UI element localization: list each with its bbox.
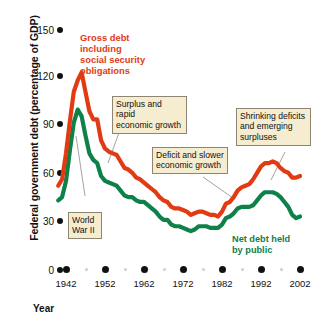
callout-deficit-growth: Deficit and slower economic growth [152,147,228,174]
chart-container: Federal government debt (percentage of G… [0,0,331,327]
callout-shrinking-deficits: Shrinking deficits and emerging surpluse… [236,108,311,146]
callout-shrinking-line-1: Shrinking deficits [240,111,307,121]
net-debt-label-line-2: by public [232,245,290,256]
callout-deficit-line-2: economic growth [156,160,224,170]
callout-shrinking-line-3: surpluses [240,132,307,142]
callout-world-war-line-2: War II [72,225,98,235]
callout-world-war-line-1: World [72,215,98,225]
callout-surplus-line-1: Surplus and rapid [116,99,183,120]
net-debt-label-line-1: Net debt held [232,234,290,245]
leader-deficit [203,177,233,198]
gross-debt-series-label: Gross debt including social security obl… [80,33,145,77]
callout-shrinking-line-2: and emerging [240,121,307,131]
callout-surplus-line-2: economic growth [116,120,183,130]
net-debt-series-label: Net debt held by public [232,234,290,255]
callout-deficit-line-1: Deficit and slower [156,150,224,160]
callout-surplus-growth: Surplus and rapid economic growth [112,96,187,134]
leader-world-war [76,136,85,196]
callout-world-war-ii: World War II [68,212,102,239]
gross-debt-label-line-4: obligations [80,66,145,77]
